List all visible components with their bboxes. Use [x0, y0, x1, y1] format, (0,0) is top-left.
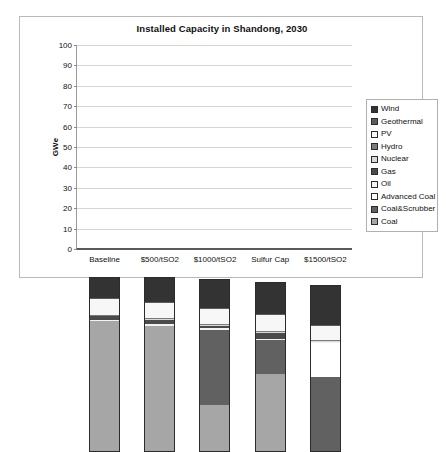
bar-group[interactable]: Baseline [77, 45, 132, 248]
chart-title: Installed Capacity in Shandong, 2030 [20, 23, 424, 34]
legend-label: Geothermal [381, 118, 423, 126]
legend-label: Coal&Scrubber [381, 205, 435, 213]
bar-segment-oil[interactable] [255, 339, 286, 340]
bar-segment-wind[interactable] [89, 277, 120, 298]
bar-segment-hydro[interactable] [144, 318, 175, 319]
y-tick-label: 10 [63, 224, 72, 233]
bar-segment-geothermal[interactable] [144, 302, 175, 303]
legend-item[interactable]: Geothermal [371, 116, 434, 129]
y-tick-label: 50 [63, 143, 72, 152]
legend-label: Gas [381, 168, 396, 176]
y-tick-label: 40 [63, 163, 72, 172]
x-tick-label: Sulfur Cap [243, 255, 298, 264]
chart-frame: Installed Capacity in Shandong, 2030 GWe… [19, 16, 423, 278]
bar-segment-geothermal[interactable] [199, 308, 230, 309]
bar-segment-coal-scrubber[interactable] [199, 330, 230, 405]
bar-segment-pv[interactable] [199, 309, 230, 324]
bar-segment-wind[interactable] [199, 279, 230, 309]
y-tick-label: 30 [63, 183, 72, 192]
bar-segment-hydro[interactable] [310, 340, 341, 341]
legend-label: Nuclear [381, 155, 409, 163]
bar-segment-coal-scrubber[interactable] [255, 340, 286, 375]
bar-segment-gas[interactable] [89, 316, 120, 320]
legend-item[interactable]: Nuclear [371, 153, 434, 166]
legend-label: Advanced Coal [381, 193, 435, 201]
legend-swatch-icon [371, 193, 378, 200]
y-tick-label: 90 [63, 61, 72, 70]
bar-segment-geothermal[interactable] [255, 314, 286, 315]
y-tick-mark [74, 249, 77, 250]
bar-segment-pv[interactable] [310, 326, 341, 340]
bar-segment-hydro[interactable] [255, 331, 286, 332]
bar-segment-oil[interactable] [199, 328, 230, 329]
legend-item[interactable]: Wind [371, 103, 434, 116]
legend-swatch-icon [371, 106, 378, 113]
bar-group[interactable]: $1500/tSO2 [298, 45, 353, 248]
bar-segment-oil[interactable] [144, 324, 175, 325]
bar-segment-pv[interactable] [255, 315, 286, 331]
bar-segment-geothermal[interactable] [89, 298, 120, 299]
legend-label: Wind [381, 105, 399, 113]
plot-area: 0102030405060708090100Baseline$500/tSO2$… [76, 45, 352, 249]
legend-swatch-icon [371, 156, 378, 163]
x-tick-label: $1500/tSO2 [298, 255, 353, 264]
bar-segment-advanced-coal[interactable] [310, 343, 341, 377]
legend-item[interactable]: Coal&Scrubber [371, 203, 434, 216]
bar-segment-geothermal[interactable] [310, 325, 341, 326]
bar-segment-gas[interactable] [199, 326, 230, 329]
bar-group[interactable]: $500/tSO2 [132, 45, 187, 248]
legend-item[interactable]: Oil [371, 178, 434, 191]
legend-swatch-icon [371, 181, 378, 188]
y-tick-label: 0 [68, 245, 72, 254]
bar-segment-gas[interactable] [255, 332, 286, 338]
legend-label: PV [381, 130, 392, 138]
gridline [77, 249, 352, 250]
bar-segment-pv[interactable] [144, 303, 175, 318]
bar-group[interactable]: $1000/tSO2 [187, 45, 242, 248]
y-tick-label: 100 [59, 41, 72, 50]
bar-segment-coal[interactable] [255, 374, 286, 452]
y-tick-label: 70 [63, 102, 72, 111]
legend-label: Oil [381, 180, 391, 188]
bar-segment-coal-scrubber[interactable] [310, 377, 341, 452]
y-tick-label: 60 [63, 122, 72, 131]
legend-swatch-icon [371, 168, 378, 175]
bar-group[interactable]: Sulfur Cap [243, 45, 298, 248]
bar-segment-gas[interactable] [144, 320, 175, 324]
plot-inner: 0102030405060708090100Baseline$500/tSO2$… [77, 45, 352, 248]
legend-label: Hydro [381, 143, 402, 151]
legend-item[interactable]: Hydro [371, 141, 434, 154]
legend-item[interactable]: PV [371, 128, 434, 141]
legend-swatch-icon [371, 143, 378, 150]
bar-segment-coal[interactable] [144, 326, 175, 452]
x-tick-label: $1000/tSO2 [187, 255, 242, 264]
x-tick-label: $500/tSO2 [132, 255, 187, 264]
bar-segment-wind[interactable] [255, 282, 286, 314]
y-tick-label: 20 [63, 204, 72, 213]
x-tick-label: Baseline [77, 255, 132, 264]
legend-swatch-icon [371, 131, 378, 138]
bar-segment-coal[interactable] [199, 405, 230, 452]
bar-segment-pv[interactable] [89, 299, 120, 315]
y-axis-title: GWe [51, 138, 60, 157]
bar-segment-coal[interactable] [89, 321, 120, 452]
bar-segment-wind[interactable] [310, 285, 341, 324]
bar-segment-hydro[interactable] [89, 315, 120, 316]
legend-swatch-icon [371, 118, 378, 125]
legend-item[interactable]: Coal [371, 216, 434, 229]
bar-segment-hydro[interactable] [199, 324, 230, 325]
legend-swatch-icon [371, 218, 378, 225]
bar-segment-wind[interactable] [144, 277, 175, 302]
bar-segment-oil[interactable] [89, 320, 120, 321]
y-tick-label: 80 [63, 81, 72, 90]
legend-label: Coal [381, 218, 397, 226]
legend-item[interactable]: Gas [371, 166, 434, 179]
legend-item[interactable]: Advanced Coal [371, 191, 434, 204]
legend-swatch-icon [371, 206, 378, 213]
chart-legend: WindGeothermalPVHydroNuclearGasOilAdvanc… [366, 99, 438, 232]
